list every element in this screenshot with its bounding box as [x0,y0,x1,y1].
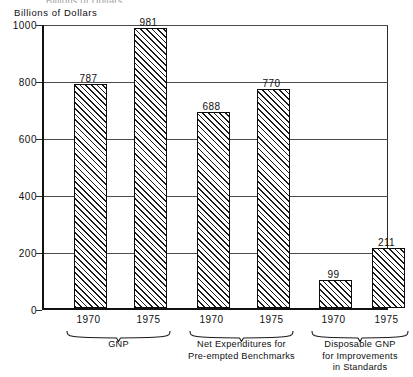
y-axis-tick-label: 400 [19,191,37,202]
cutoff-caption-sliver: Billions of Dollars [46,0,206,3]
bar-value-label: 211 [360,237,413,248]
x-axis-zone: 19701975GNP19701975Net Expenditures forP… [42,312,388,377]
y-axis-caption: Billions of Dollars [14,7,97,18]
x-axis-year-label: 1975 [360,314,413,325]
y-axis-tick-mark [36,310,42,311]
bar [372,248,405,308]
group-brace [66,328,171,339]
y-axis-tick-mark [36,25,42,26]
bar [257,89,290,308]
group-caption-line: for Improvements [289,351,413,363]
y-axis-tick-label: 800 [19,77,37,88]
bar [319,280,352,308]
bar-value-label: 99 [307,269,360,280]
bar-value-label: 787 [62,73,115,84]
x-axis-year-label: 1970 [307,314,360,325]
group-caption-line: in Standards [289,362,413,374]
y-axis-tick-labels: 02004006008001000 [0,25,37,310]
bar-value-label: 770 [245,78,298,89]
x-axis-year-label: 1975 [245,314,298,325]
y-axis-tick-mark [36,139,42,140]
y-axis-tick-mark [36,196,42,197]
bar-value-label: 981 [122,17,175,28]
y-axis-tick-label: 1000 [13,20,37,31]
x-axis-year-label: 1970 [62,314,115,325]
group-caption: Disposable GNPfor Improvementsin Standar… [289,339,413,374]
plot-area [42,25,388,310]
bar [74,84,107,308]
y-axis-tick-mark [36,82,42,83]
gridline [44,25,388,26]
y-axis-tick-mark [36,253,42,254]
bar [134,28,167,308]
bar [197,112,230,308]
bar-value-label: 688 [185,101,238,112]
group-brace [189,328,294,339]
group-brace [311,328,409,339]
x-axis-year-label: 1975 [122,314,175,325]
x-axis-year-label: 1970 [185,314,238,325]
y-axis-tick-label: 600 [19,134,37,145]
group-caption-line: Disposable GNP [289,339,413,351]
y-axis-tick-label: 200 [19,248,37,259]
